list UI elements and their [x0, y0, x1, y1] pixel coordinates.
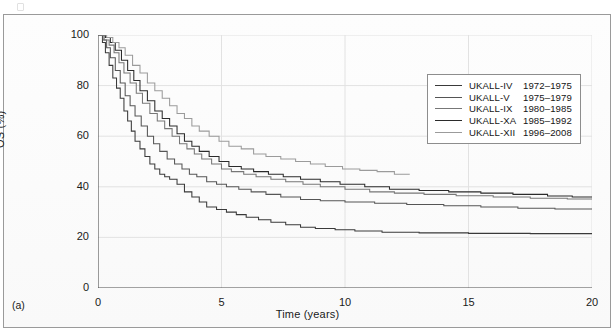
chart-legend: UKALL-IV1972–1975UKALL-V1975–1979UKALL-I… [427, 74, 581, 144]
legend-series-years: 1980–1985 [523, 103, 572, 114]
x-tick-label: 15 [449, 296, 489, 308]
legend-line-icon [435, 97, 462, 98]
y-tick-label: 80 [53, 79, 89, 91]
legend-series-years: 1996–2008 [523, 127, 572, 138]
x-tick-label: 5 [202, 296, 242, 308]
legend-row: UKALL-XII1996–2008 [435, 126, 572, 138]
figure-root: OS (%) Time (years) (a) 020406080100 051… [0, 0, 615, 334]
y-tick-label: 0 [53, 281, 89, 293]
legend-series-name: UKALL-XII [469, 127, 523, 138]
legend-row: UKALL-V1975–1979 [435, 92, 572, 104]
survival-curves-svg [98, 35, 592, 288]
legend-series-years: 1975–1979 [523, 92, 572, 103]
legend-line-icon [435, 108, 462, 109]
x-axis-label: Time (years) [0, 308, 615, 320]
legend-series-years: 1985–1992 [523, 115, 572, 126]
legend-line-icon [435, 120, 462, 121]
legend-row: UKALL-XA1985–1992 [435, 115, 572, 127]
legend-series-name: UKALL-IX [469, 103, 523, 114]
y-axis-label: OS (%) [0, 111, 6, 148]
legend-row: UKALL-IV1972–1975 [435, 80, 572, 92]
y-tick-label: 60 [53, 129, 89, 141]
y-tick-label: 20 [53, 230, 89, 242]
scan-artifact-speck [17, 3, 24, 11]
x-tick-label: 10 [325, 296, 365, 308]
x-tick-label: 20 [572, 296, 612, 308]
legend-series-name: UKALL-V [469, 92, 523, 103]
panel-label: (a) [12, 299, 25, 311]
x-tick-label: 0 [78, 296, 118, 308]
plot-area [98, 35, 592, 288]
legend-row: UKALL-IX1980–1985 [435, 103, 572, 115]
legend-series-name: UKALL-XA [469, 115, 523, 126]
legend-line-icon [435, 85, 462, 86]
y-tick-label: 40 [53, 180, 89, 192]
legend-series-years: 1972–1975 [523, 80, 572, 91]
legend-series-name: UKALL-IV [469, 80, 523, 91]
legend-line-icon [435, 132, 462, 133]
y-tick-label: 100 [53, 28, 89, 40]
